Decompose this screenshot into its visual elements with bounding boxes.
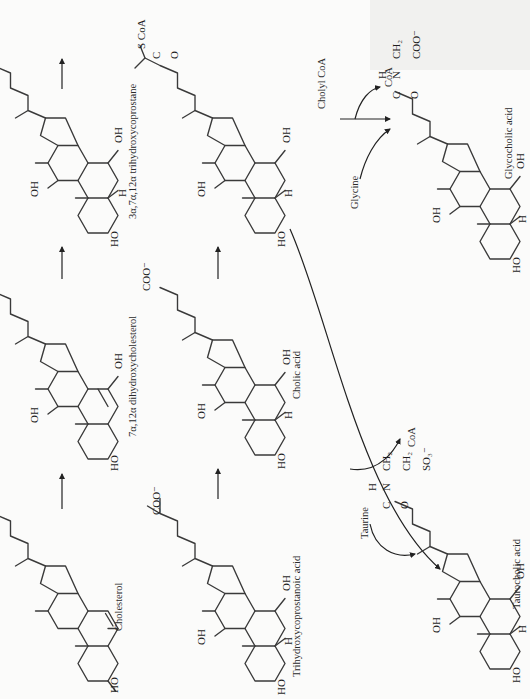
reagent-coa-bottom: CoA bbox=[406, 427, 417, 447]
label-trihydroxycoprostane: 3α,7α,12α trihydroxycoprostane bbox=[127, 83, 138, 219]
glycocholic-acid-structure bbox=[395, 92, 520, 260]
cholyl-coa-structure bbox=[135, 46, 285, 234]
reagent-glycine: Glycine bbox=[349, 175, 360, 209]
coprostanoic-coo: COO⁻ bbox=[150, 486, 162, 515]
reagent-cholyl-coa: Cholyl CoA bbox=[316, 58, 327, 109]
tauro-c: C bbox=[380, 502, 392, 509]
cholic-5-h: H bbox=[282, 411, 294, 419]
trihydroxy-12-oh: OH bbox=[28, 181, 40, 197]
arrow-taurine bbox=[370, 524, 415, 555]
cholylcoa-7-oh: OH bbox=[280, 127, 292, 143]
dihydroxycholesterol-structure bbox=[0, 277, 118, 460]
coprostanoic-12-oh: OH bbox=[195, 629, 207, 645]
label-cholesterol: Cholesterol bbox=[113, 583, 124, 631]
cholylcoa-5-h: H bbox=[282, 189, 294, 197]
cholylcoa-o: O bbox=[168, 51, 180, 59]
trihydroxy-7-oh: OH bbox=[112, 127, 124, 143]
dihydroxy-12-oh: OH bbox=[28, 407, 40, 423]
cholylcoa-c: C bbox=[150, 52, 162, 59]
cholylcoa-s-coa: S CoA bbox=[135, 19, 147, 49]
taurocholic-acid-structure bbox=[395, 502, 520, 670]
glyco-12-oh: OH bbox=[430, 207, 442, 223]
trihydroxy-ho: HO bbox=[108, 231, 120, 247]
glyco-5-h: H bbox=[516, 215, 528, 223]
tauro-5-h: H bbox=[516, 625, 528, 633]
label-taurocholic-acid: Taurocholic acid bbox=[511, 538, 522, 609]
reagent-taurine: Taurine bbox=[359, 507, 370, 539]
arrow-glycine bbox=[360, 129, 390, 179]
glyco-ho: HO bbox=[510, 257, 522, 273]
arrow-coa-release-top bbox=[355, 87, 380, 119]
tauro-h: H bbox=[366, 483, 378, 491]
tauro-ch2-b: CH₂ bbox=[400, 452, 412, 471]
coprostanoic-ho: HO bbox=[275, 679, 287, 695]
label-glycocholic-acid: Glycocholic acid bbox=[503, 107, 514, 179]
cholesterol-structure bbox=[0, 499, 118, 692]
tauro-12-oh: OH bbox=[430, 617, 442, 633]
glyco-coo: COO⁻ bbox=[410, 30, 422, 59]
cholesterol-ho: HO bbox=[108, 677, 120, 693]
glyco-c: C bbox=[390, 92, 402, 99]
trihydroxycoprostanoic-structure bbox=[148, 499, 286, 682]
tauro-ch2-a: CH₂ bbox=[380, 452, 392, 471]
glyco-ch2: CH₂ bbox=[390, 40, 402, 59]
tauro-so3: SO₃⁻ bbox=[420, 447, 432, 471]
tauro-n: N bbox=[380, 483, 392, 491]
trihydroxycoprostane-structure bbox=[0, 51, 118, 234]
pathway-diagram: HO Cholesterol HO OH OH 7α,12α dihydroxy… bbox=[0, 0, 530, 699]
dihydroxy-7-oh: OH bbox=[112, 353, 124, 369]
bile-acid-pathway-figure: HO Cholesterol HO OH OH 7α,12α dihydroxy… bbox=[0, 0, 530, 699]
cholic-12-oh: OH bbox=[195, 403, 207, 419]
cholic-coo: COO⁻ bbox=[140, 262, 152, 291]
arrow-coa-release-bottom bbox=[350, 439, 400, 470]
rotated-page: HO Cholesterol HO OH OH 7α,12α dihydroxy… bbox=[0, 19, 528, 695]
dihydroxy-ho: HO bbox=[108, 455, 120, 471]
glyco-h: H bbox=[376, 71, 388, 79]
glyco-o: O bbox=[408, 91, 420, 99]
label-cholic-acid: Cholic acid bbox=[291, 350, 302, 399]
glyco-n: N bbox=[390, 71, 402, 79]
cholylcoa-ho: HO bbox=[275, 231, 287, 247]
cholic-ho: HO bbox=[275, 453, 287, 469]
cholic-acid-structure bbox=[160, 288, 285, 456]
cholylcoa-12-oh: OH bbox=[195, 181, 207, 197]
tauro-o: O bbox=[398, 501, 410, 509]
glyco-7-oh: OH bbox=[514, 153, 526, 169]
label-trihydroxycoprostanoic-acid: Trihydroxycoprostanoic acid bbox=[291, 555, 302, 677]
tauro-ho: HO bbox=[510, 667, 522, 683]
label-dihydroxycholesterol: 7α,12α dihydroxycholesterol bbox=[127, 316, 138, 437]
